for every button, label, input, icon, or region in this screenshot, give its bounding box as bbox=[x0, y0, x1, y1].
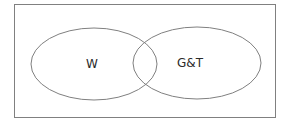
set-w-label: W bbox=[86, 57, 98, 71]
set-gt-label: G&T bbox=[177, 56, 204, 70]
universe-rectangle bbox=[15, 5, 276, 118]
venn-diagram: W G&T bbox=[0, 0, 291, 123]
